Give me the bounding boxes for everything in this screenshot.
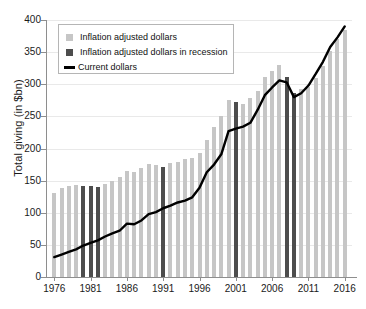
y-tick-label: 300: [0, 78, 41, 89]
bar: [168, 163, 172, 277]
bar: [335, 39, 339, 277]
chart-legend: Inflation adjusted dollars Inflation adj…: [58, 24, 234, 74]
bar: [321, 66, 325, 277]
y-tick-label: 250: [0, 110, 41, 121]
bar: [270, 71, 274, 277]
x-tick-label: 1996: [188, 283, 210, 294]
y-tick-label: 350: [0, 46, 41, 57]
x-tick-mark: [272, 277, 273, 281]
y-tick-label: 400: [0, 14, 41, 25]
x-tick-mark: [236, 277, 237, 281]
bar: [219, 116, 223, 277]
x-tick-label: 2011: [298, 283, 320, 294]
bar: [227, 100, 231, 277]
x-tick-label: 2006: [261, 283, 283, 294]
bar: [52, 193, 56, 277]
bar-recession: [285, 77, 289, 277]
bar: [67, 186, 71, 277]
x-tick-mark: [308, 277, 309, 281]
x-axis-line: [46, 277, 357, 278]
dark-square-icon: [66, 49, 73, 56]
bar: [118, 177, 122, 277]
bar: [328, 51, 332, 277]
bar: [205, 140, 209, 277]
bar: [132, 172, 136, 277]
legend-label: Inflation adjusted dollars: [80, 32, 177, 42]
bar: [183, 159, 187, 277]
x-tick-mark: [163, 277, 164, 281]
bar: [263, 77, 267, 277]
bar: [277, 65, 281, 277]
x-tick-label: 1991: [152, 283, 174, 294]
bar: [110, 181, 114, 277]
bar-recession: [234, 102, 238, 277]
bar-recession: [96, 187, 100, 277]
bar: [198, 153, 202, 277]
bar: [256, 91, 260, 277]
x-tick-label: 2001: [225, 283, 247, 294]
bar: [176, 162, 180, 277]
bar: [190, 158, 194, 278]
x-tick-mark: [91, 277, 92, 281]
y-tick-label: 0: [0, 271, 41, 282]
legend-item-inflation-adjusted-recession: Inflation adjusted dollars in recession: [66, 45, 227, 59]
black-line-icon: [64, 66, 75, 69]
bar-recession: [81, 186, 85, 277]
bar: [241, 104, 245, 277]
bar: [147, 164, 151, 277]
bar: [299, 89, 303, 277]
bar-recession: [292, 93, 296, 277]
x-tick-mark: [200, 277, 201, 281]
y-tick-label: 100: [0, 207, 41, 218]
legend-label: Current dollars: [78, 62, 137, 72]
x-tick-label: 2016: [334, 283, 356, 294]
x-tick-mark: [127, 277, 128, 281]
bar: [74, 185, 78, 277]
chart-figure: Total giving (in $bn) 050100150200250300…: [0, 0, 366, 309]
bar: [343, 30, 347, 277]
bar: [306, 87, 310, 277]
legend-item-current-dollars: Current dollars: [66, 60, 227, 74]
bar-recession: [89, 186, 93, 277]
legend-item-inflation-adjusted: Inflation adjusted dollars: [66, 30, 227, 44]
x-tick-label: 1981: [79, 283, 101, 294]
bar: [103, 184, 107, 277]
x-tick-label: 1976: [43, 283, 65, 294]
bar: [154, 165, 158, 277]
light-square-icon: [66, 34, 73, 41]
bar: [125, 171, 129, 277]
bar: [212, 127, 216, 277]
y-tick-label: 200: [0, 143, 41, 154]
x-tick-mark: [345, 277, 346, 281]
bar: [139, 168, 143, 277]
y-tick-label: 150: [0, 175, 41, 186]
x-tick-label: 1986: [116, 283, 138, 294]
bar-recession: [161, 167, 165, 278]
y-tick-label: 50: [0, 239, 41, 250]
legend-label: Inflation adjusted dollars in recession: [80, 47, 228, 57]
bar: [60, 188, 64, 277]
bar: [248, 98, 252, 277]
x-tick-mark: [54, 277, 55, 281]
bar: [314, 78, 318, 277]
